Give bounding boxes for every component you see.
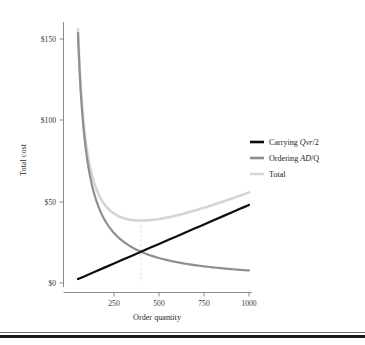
y-tick-label-100: $100 [41,116,56,125]
page-rule-thin [0,332,365,333]
y-axis-title: Total cost [19,143,28,176]
legend-label-ordering: Ordering AD/Q [269,154,319,163]
eoq-cost-chart: $150 $100 $50 $0 Total cost 250 500 750 … [0,0,365,322]
page-rule [0,335,365,338]
series-line-ordering [78,33,249,270]
x-tick-label-500: 500 [153,299,165,308]
x-tick-label-250: 250 [108,299,120,308]
chart-legend: Carrying Qvr/2 Ordering AD/Q Total [248,134,365,190]
x-axis: 250 500 750 1000 Order quantity [64,293,257,323]
legend-label-carrying: Carrying Qvr/2 [269,138,319,147]
legend-item-total[interactable]: Total [250,170,286,179]
y-tick-label-50: $50 [45,198,57,207]
legend-item-ordering[interactable]: Ordering AD/Q [250,154,319,163]
x-tick-label-750: 750 [198,299,210,308]
x-axis-title: Order quantity [133,313,182,322]
legend-item-carrying[interactable]: Carrying Qvr/2 [250,138,319,147]
series-line-total [78,29,249,220]
series-layer [78,29,249,279]
y-axis: $150 $100 $50 $0 Total cost [19,22,64,288]
y-tick-label-150: $150 [41,35,56,44]
y-tick-label-0: $0 [48,279,56,288]
x-tick-label-1000: 1000 [241,299,256,308]
legend-label-total: Total [269,170,286,179]
